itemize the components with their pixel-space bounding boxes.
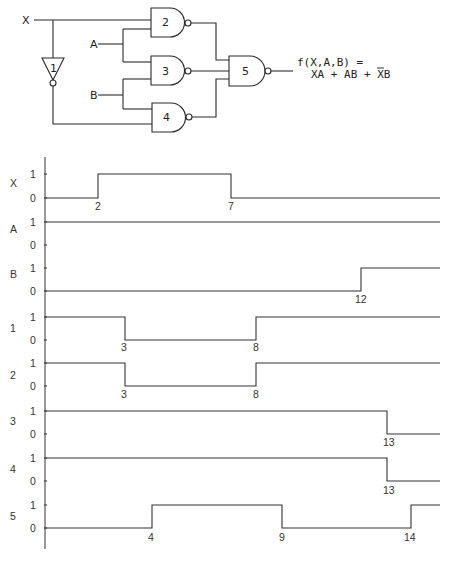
svg-text:0: 0 bbox=[30, 285, 36, 297]
svg-text:1: 1 bbox=[30, 168, 36, 180]
svg-text:1: 1 bbox=[30, 357, 36, 369]
circuit-schematic: X A B 1 2 3 4 bbox=[22, 8, 391, 132]
signal-name-2: 2 bbox=[10, 369, 16, 381]
svg-text:0: 0 bbox=[30, 239, 36, 251]
gate-label-3: 3 bbox=[162, 65, 169, 78]
marker-5-4: 4 bbox=[148, 531, 154, 543]
waveform-x bbox=[45, 174, 440, 198]
marker-5-14: 14 bbox=[404, 531, 416, 543]
nand-gate-3-bubble bbox=[185, 68, 191, 74]
nand-gate-4-bubble bbox=[186, 114, 192, 120]
marker-3-13: 13 bbox=[383, 436, 395, 448]
signal-name-4: 4 bbox=[10, 463, 16, 475]
svg-text:1: 1 bbox=[30, 311, 36, 323]
gate-label-4: 4 bbox=[163, 111, 170, 124]
svg-text:0: 0 bbox=[30, 428, 36, 440]
timing-diagram: X A B 1 2 3 4 5 1 0 1 0 1 0 1 0 1 0 1 0 … bbox=[10, 157, 440, 549]
marker-4-13: 13 bbox=[383, 484, 395, 496]
svg-text:0: 0 bbox=[30, 380, 36, 392]
wire-gate2-to-gate5 bbox=[191, 23, 229, 60]
svg-text:0: 0 bbox=[30, 522, 36, 534]
waveform-3 bbox=[45, 411, 440, 434]
signal-name-3: 3 bbox=[10, 415, 16, 427]
wire-not-to-gate4 bbox=[53, 86, 152, 124]
marker-1-3: 3 bbox=[121, 341, 127, 353]
marker-2-8: 8 bbox=[253, 388, 259, 400]
svg-text:1: 1 bbox=[30, 499, 36, 511]
svg-text:1: 1 bbox=[30, 216, 36, 228]
not-gate-1-bubble bbox=[50, 80, 56, 86]
marker-5-9: 9 bbox=[279, 531, 285, 543]
marker-2-3: 3 bbox=[121, 388, 127, 400]
nand-gate-2-bubble bbox=[185, 20, 191, 26]
svg-text:0: 0 bbox=[30, 475, 36, 487]
gate-label-5: 5 bbox=[242, 65, 249, 78]
wire-gate4-to-gate5 bbox=[192, 79, 229, 117]
svg-text:1: 1 bbox=[30, 262, 36, 274]
gate-label-2: 2 bbox=[162, 16, 169, 29]
marker-1-8: 8 bbox=[253, 341, 259, 353]
waveform-b bbox=[45, 268, 440, 291]
marker-b-12: 12 bbox=[355, 293, 367, 305]
logic-diagram: X A B 1 2 3 4 bbox=[0, 0, 452, 565]
svg-text:1: 1 bbox=[30, 405, 36, 417]
marker-x-2: 2 bbox=[95, 200, 101, 212]
gate-label-1: 1 bbox=[50, 62, 57, 75]
output-expression-line2: XA + AB + XB bbox=[311, 68, 391, 81]
marker-x-7: 7 bbox=[228, 200, 234, 212]
level-labels: 1 0 1 0 1 0 1 0 1 0 1 0 1 0 1 0 bbox=[30, 168, 36, 534]
svg-text:0: 0 bbox=[30, 334, 36, 346]
waveform-4 bbox=[45, 458, 440, 481]
input-label-x: X bbox=[22, 14, 30, 27]
waveform-1 bbox=[45, 317, 440, 340]
input-label-b: B bbox=[90, 89, 98, 102]
signal-name-a: A bbox=[10, 223, 17, 235]
svg-text:1: 1 bbox=[30, 452, 36, 464]
signal-name-x: X bbox=[10, 177, 17, 189]
input-label-a: A bbox=[90, 38, 98, 51]
signal-name-b: B bbox=[10, 268, 17, 280]
signal-name-5: 5 bbox=[10, 510, 16, 522]
nand-gate-5-bubble bbox=[265, 68, 271, 74]
waveform-5 bbox=[45, 505, 440, 528]
svg-text:0: 0 bbox=[30, 192, 36, 204]
signal-name-1: 1 bbox=[10, 322, 16, 334]
waveform-2 bbox=[45, 363, 440, 386]
